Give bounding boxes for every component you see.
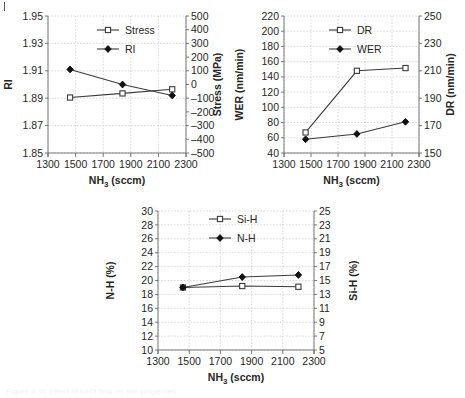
svg-text:–300: –300 [191,119,215,131]
datapoint-n-h [239,274,245,281]
svg-text:19: 19 [319,246,331,258]
legend-label-si-h: Si-H [237,213,257,225]
svg-text:1.89: 1.89 [23,92,44,104]
datapoint-si-h [296,284,301,289]
legend-marker-dr [337,27,342,32]
svg-text:190: 190 [424,92,442,104]
svg-text:18: 18 [141,288,153,300]
svg-text:2100: 2100 [271,355,295,367]
svg-text:1500: 1500 [178,355,202,367]
svg-text:22: 22 [141,260,153,272]
svg-text:400: 400 [191,23,209,35]
legend-label-n-h: N-H [237,232,256,244]
datapoint-stress [67,95,72,100]
svg-text:170: 170 [424,119,442,131]
svg-text:0: 0 [191,78,197,90]
datapoint-wer [302,136,308,143]
datapoint-wer [354,131,360,138]
svg-text:16: 16 [141,302,153,314]
svg-text:100: 100 [261,101,279,113]
svg-text:250: 250 [424,10,442,22]
svg-text:13: 13 [319,288,331,300]
svg-text:23: 23 [319,219,331,231]
legend-marker-stress [105,27,110,32]
svg-text:1700: 1700 [209,355,233,367]
axis-title-right: DR (nm/min) [444,53,456,115]
datapoint-wer [402,118,408,125]
svg-text:120: 120 [261,86,279,98]
svg-text:180: 180 [261,40,279,52]
svg-text:15: 15 [319,274,331,286]
axis-title-left: N-H (%) [104,262,116,300]
datapoint-dr [303,130,308,135]
chart-ri-stress: 1.851.871.891.911.931.95–500–400–300–200… [0,4,232,199]
svg-text:2300: 2300 [174,158,198,170]
svg-text:2300: 2300 [302,355,326,367]
axis-title-left: RI [2,79,14,90]
svg-text:1700: 1700 [326,158,350,170]
svg-text:1900: 1900 [353,158,377,170]
svg-text:14: 14 [141,316,153,328]
svg-text:7: 7 [319,330,325,342]
svg-text:2100: 2100 [380,158,404,170]
legend: DRWER [329,24,382,55]
svg-text:1300: 1300 [36,158,60,170]
svg-text:20: 20 [141,274,153,286]
series-line-wer [306,122,406,140]
svg-text:200: 200 [261,25,279,37]
svg-text:17: 17 [319,260,331,272]
svg-text:1.93: 1.93 [23,37,44,49]
svg-text:1.87: 1.87 [23,119,44,131]
chart-ri-stress-svg: 1.851.871.891.911.931.95–500–400–300–200… [0,4,232,199]
legend: StressRI [97,24,155,55]
svg-text:26: 26 [141,232,153,244]
datapoint-dr [354,68,359,73]
chart-nh-sih: 1012141618202224262830579111315171921232… [100,199,370,398]
svg-text:24: 24 [141,246,153,258]
datapoint-dr [403,65,408,70]
datapoint-stress [120,91,125,96]
legend-marker-ri [105,46,111,53]
legend-marker-si-h [217,216,222,221]
legend-label-ri: RI [125,43,136,55]
svg-text:12: 12 [141,330,153,342]
svg-text:2100: 2100 [147,158,171,170]
svg-text:9: 9 [319,316,325,328]
figure-caption: Figure 4.10 Effect of NH3 flow on film p… [6,387,458,396]
svg-text:1300: 1300 [272,158,296,170]
svg-text:230: 230 [424,37,442,49]
axis-title-right: Si-H (%) [347,260,359,300]
svg-text:1.95: 1.95 [23,10,44,22]
svg-text:1500: 1500 [64,158,88,170]
svg-text:1700: 1700 [92,158,116,170]
svg-text:28: 28 [141,219,153,231]
svg-text:140: 140 [261,70,279,82]
svg-text:11: 11 [319,302,330,314]
datapoint-ri [169,92,175,99]
axis-title-x: NH3 (sccm) [208,371,264,386]
datapoint-ri [67,66,73,73]
datapoint-si-h [240,283,245,288]
svg-text:21: 21 [319,232,331,244]
svg-text:500: 500 [191,10,209,22]
datapoint-n-h [295,272,301,279]
svg-text:30: 30 [141,205,153,217]
svg-text:1500: 1500 [299,158,323,170]
svg-text:25: 25 [319,205,331,217]
datapoint-ri [119,81,125,88]
axis-title-left: WER (nm/min) [233,49,245,121]
axis-title-x: NH3 (sccm) [89,174,145,189]
legend-label-stress: Stress [125,24,155,36]
svg-text:1900: 1900 [240,355,264,367]
axis-title-x: NH3 (sccm) [323,174,379,189]
svg-text:200: 200 [191,51,209,63]
svg-text:1.91: 1.91 [23,64,44,76]
legend-label-wer: WER [357,43,382,55]
svg-text:80: 80 [267,116,279,128]
chart-wer-dr-svg: 4060801001201401601802002201501701902102… [232,4,465,199]
legend-label-dr: DR [357,24,373,36]
svg-text:60: 60 [267,131,279,143]
svg-text:300: 300 [191,37,209,49]
svg-text:1900: 1900 [119,158,143,170]
svg-text:–400: –400 [191,133,215,145]
